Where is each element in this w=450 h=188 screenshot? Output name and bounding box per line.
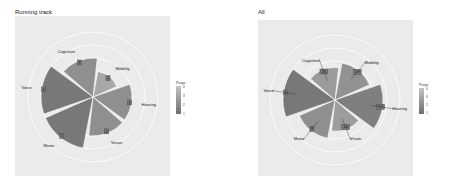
- category-label: Motor: [44, 143, 55, 148]
- legend-tick: 4: [426, 87, 428, 91]
- panel-all: 2.9Mobility3.7Hearing2.4Vision3Motor4Voi…: [225, 0, 450, 188]
- legend: Purge 4 3 2 1: [419, 83, 428, 115]
- legend-colorbar: [419, 88, 424, 114]
- value-label: 4: [43, 88, 45, 92]
- value-label: 3: [106, 130, 108, 134]
- category-label: Hearing: [141, 102, 156, 107]
- category-label: Motor: [294, 136, 305, 141]
- category-label: Vision: [350, 136, 362, 141]
- category-label: Mobility: [115, 66, 130, 71]
- category-label: Cognition: [57, 49, 75, 54]
- panel-running-track: 2Mobility3Hearing3Vision4Motor4Voice3Cog…: [0, 0, 225, 188]
- category-label: Cognition: [302, 58, 320, 63]
- value-label: 4: [61, 134, 63, 138]
- legend-tick: 1: [426, 111, 428, 115]
- legend-tick: 4: [183, 85, 185, 89]
- polar-chart-running-track: 2Mobility3Hearing3Vision4Motor4Voice3Cog…: [0, 0, 225, 188]
- category-label: Hearing: [392, 106, 407, 111]
- legend-tick: 2: [426, 103, 428, 107]
- category-label: Voice: [263, 88, 274, 93]
- polar-chart-all: 2.9Mobility3.7Hearing2.4Vision3Motor4Voi…: [225, 0, 450, 188]
- category-label: Voice: [21, 85, 32, 90]
- legend-tick: 3: [426, 95, 428, 99]
- legend-tick: 3: [183, 94, 185, 98]
- legend-tick: 2: [183, 103, 185, 107]
- legend: Purge 4 3 2 1: [176, 81, 185, 116]
- value-label: 3: [79, 61, 81, 65]
- category-label: Mobility: [365, 60, 380, 65]
- chart-title: Running track: [15, 9, 52, 15]
- legend-tick: 1: [183, 112, 185, 116]
- legend-colorbar: [176, 86, 181, 114]
- chart-title: All: [258, 9, 265, 15]
- category-label: Vision: [111, 140, 123, 145]
- value-label: 2: [107, 76, 109, 80]
- value-label: 3: [129, 101, 131, 105]
